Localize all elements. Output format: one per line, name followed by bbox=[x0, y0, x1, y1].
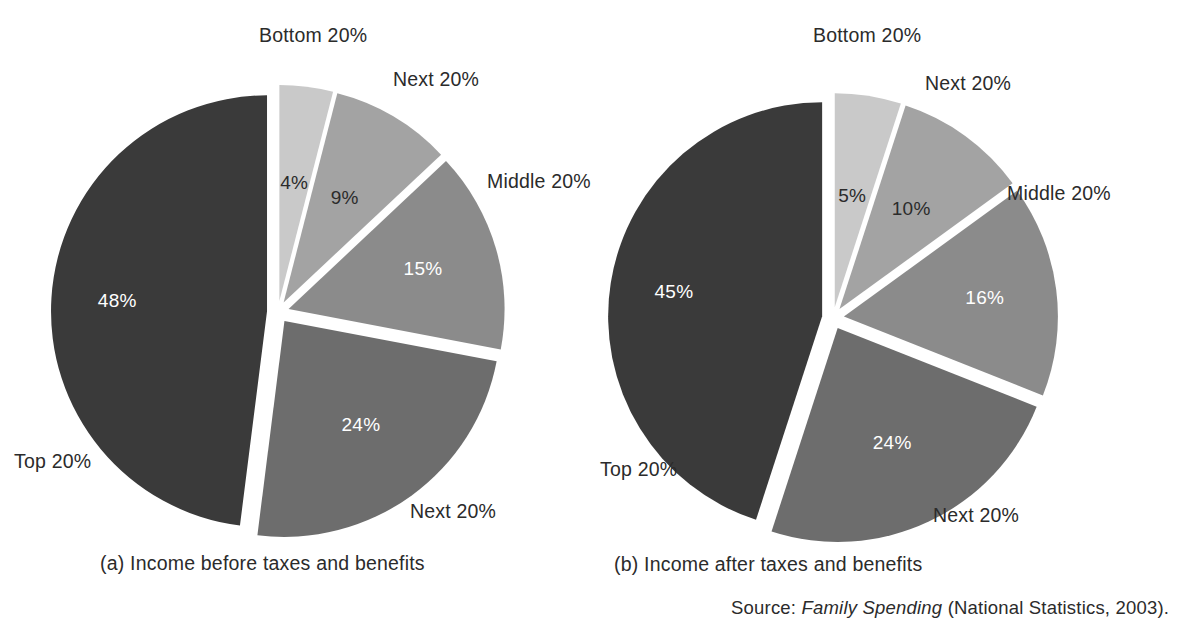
label-middle-20-a: Middle 20% bbox=[487, 170, 591, 193]
label-bottom-20-a: Bottom 20% bbox=[259, 24, 367, 47]
slice-value-label: 4% bbox=[280, 172, 308, 193]
label-next-20-lower-a: Next 20% bbox=[393, 68, 479, 91]
slice-value-label: 16% bbox=[965, 287, 1004, 308]
source-publication-title: Family Spending bbox=[802, 597, 943, 618]
pie-chart-a-svg: 4%9%15%24%48% bbox=[0, 0, 599, 637]
slice-value-label: 9% bbox=[331, 187, 359, 208]
income-distribution-figure: 4%9%15%24%48% Bottom 20% Next 20% Middle… bbox=[0, 0, 1199, 637]
source-prefix: Source: bbox=[731, 597, 796, 618]
label-next-20-upper-b: Next 20% bbox=[933, 504, 1019, 527]
caption-chart-b: (b) Income after taxes and benefits bbox=[614, 553, 922, 576]
slice-value-label: 48% bbox=[98, 290, 137, 311]
pie-chart-b: 5%10%16%24%45% Bottom 20% Next 20% Middl… bbox=[600, 0, 1199, 637]
slice-value-label: 24% bbox=[341, 414, 380, 435]
pie-slices-a bbox=[51, 85, 505, 537]
label-middle-20-b: Middle 20% bbox=[1007, 182, 1111, 205]
caption-chart-a: (a) Income before taxes and benefits bbox=[100, 552, 425, 575]
slice-value-label: 45% bbox=[655, 281, 694, 302]
pie-chart-a: 4%9%15%24%48% Bottom 20% Next 20% Middle… bbox=[0, 0, 599, 637]
label-next-20-lower-b: Next 20% bbox=[925, 72, 1011, 95]
slice-value-label: 15% bbox=[404, 258, 443, 279]
label-top-20-b: Top 20% bbox=[600, 458, 677, 481]
slice-value-label: 10% bbox=[892, 198, 931, 219]
slice-value-label: 24% bbox=[873, 432, 912, 453]
label-top-20-a: Top 20% bbox=[14, 450, 91, 473]
source-note: Source: Family Spending (National Statis… bbox=[731, 597, 1169, 619]
slice-value-label: 5% bbox=[838, 185, 866, 206]
pie-chart-b-svg: 5%10%16%24%45% bbox=[600, 0, 1199, 637]
source-publisher: (National Statistics, 2003). bbox=[948, 597, 1170, 618]
label-bottom-20-b: Bottom 20% bbox=[813, 24, 921, 47]
label-next-20-upper-a: Next 20% bbox=[410, 500, 496, 523]
